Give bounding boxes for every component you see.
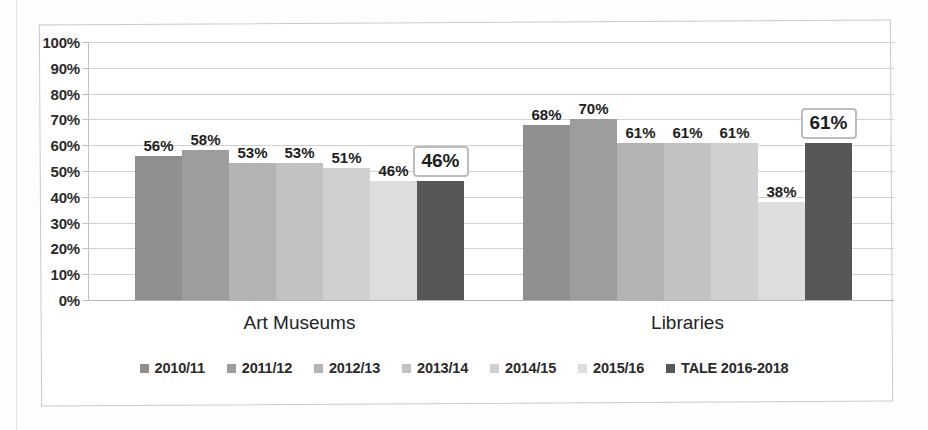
bar <box>417 181 464 300</box>
legend-swatch-icon <box>227 364 236 373</box>
y-axis-tick-mark <box>82 68 88 69</box>
y-axis-tick-label: 100% <box>26 34 80 51</box>
bar <box>711 143 758 300</box>
legend-swatch-icon <box>314 364 323 373</box>
legend-item-label: 2014/15 <box>505 360 556 376</box>
y-axis-tick-label: 0% <box>26 292 80 309</box>
plot-area: 56%58%53%53%51%46%46%68%70%61%61%61%38%6… <box>88 42 894 300</box>
y-axis-tick-label: 90% <box>26 59 80 76</box>
y-axis-tick-label: 80% <box>26 85 80 102</box>
gridline <box>88 119 894 120</box>
legend-item[interactable]: 2012/13 <box>314 360 380 376</box>
bar <box>758 202 805 300</box>
bar-value-label: 58% <box>190 131 220 148</box>
legend-item-label: TALE 2016-2018 <box>681 360 788 376</box>
bar-value-label: 61% <box>625 124 655 141</box>
legend-item-label: 2010/11 <box>155 360 205 376</box>
legend-swatch-icon <box>490 364 499 373</box>
y-axis-tick-mark <box>82 145 88 146</box>
bar <box>182 150 229 300</box>
bar-value-label: 68% <box>531 106 561 123</box>
legend-item[interactable]: 2015/16 <box>578 360 644 376</box>
legend-item-label: 2012/13 <box>329 360 380 376</box>
bar-value-label: 70% <box>578 100 608 117</box>
x-axis-baseline <box>88 300 894 301</box>
y-axis-tick-mark <box>82 223 88 224</box>
legend-item[interactable]: 2014/15 <box>490 360 556 376</box>
bar-value-label: 61% <box>800 108 856 139</box>
legend-item[interactable]: TALE 2016-2018 <box>666 360 788 376</box>
y-axis-tick-label: 70% <box>26 111 80 128</box>
bar <box>617 143 664 300</box>
legend-item-label: 2011/12 <box>242 360 292 376</box>
y-axis-tick-mark <box>82 197 88 198</box>
y-axis-tick-mark <box>82 300 88 301</box>
category-label: Art Museums <box>244 312 356 334</box>
bar-value-label: 46% <box>378 162 408 179</box>
gridline <box>88 42 894 43</box>
y-axis-tick-label: 10% <box>26 266 80 283</box>
bar <box>570 119 617 300</box>
legend-item-label: 2013/14 <box>417 360 468 376</box>
y-axis-tick-mark <box>82 119 88 120</box>
bar <box>323 168 370 300</box>
y-axis-tick-label: 50% <box>26 163 80 180</box>
gridline <box>88 68 894 69</box>
chart-screenshot: 100%90%80%70%60%50%40%30%20%10%0% 56%58%… <box>0 0 928 430</box>
legend-swatch-icon <box>140 364 149 373</box>
bar <box>229 163 276 300</box>
gridline <box>88 94 894 95</box>
legend-swatch-icon <box>666 364 675 373</box>
y-axis-tick-label: 60% <box>26 137 80 154</box>
chart-legend: 2010/112011/122012/132013/142014/152015/… <box>0 360 928 376</box>
y-axis-tick-mark <box>82 248 88 249</box>
bar <box>370 181 417 300</box>
category-label: Libraries <box>651 312 724 334</box>
bar-value-label: 53% <box>284 144 314 161</box>
bar-value-label: 61% <box>672 124 702 141</box>
y-axis-tick-label: 20% <box>26 240 80 257</box>
y-axis-tick-mark <box>82 171 88 172</box>
legend-item[interactable]: 2011/12 <box>227 360 292 376</box>
bar <box>135 156 182 300</box>
bar-value-label: 46% <box>412 146 468 177</box>
legend-swatch-icon <box>402 364 411 373</box>
bar-value-label: 56% <box>143 137 173 154</box>
legend-item-label: 2015/16 <box>593 360 644 376</box>
bar-value-label: 51% <box>331 149 361 166</box>
bar-value-label: 53% <box>237 144 267 161</box>
bar <box>805 143 852 300</box>
legend-item[interactable]: 2010/11 <box>140 360 205 376</box>
y-axis-line <box>88 42 89 301</box>
legend-item[interactable]: 2013/14 <box>402 360 468 376</box>
bar <box>276 163 323 300</box>
bar-value-label: 38% <box>766 183 796 200</box>
y-axis-tick-label: 30% <box>26 214 80 231</box>
bar-value-label: 61% <box>719 124 749 141</box>
y-axis-tick-mark <box>82 94 88 95</box>
legend-swatch-icon <box>578 364 587 373</box>
bar <box>523 125 570 300</box>
y-axis-tick-label: 40% <box>26 188 80 205</box>
bar <box>664 143 711 300</box>
y-axis-tick-mark <box>82 274 88 275</box>
y-axis-tick-mark <box>82 42 88 43</box>
y-axis-labels: 100%90%80%70%60%50%40%30%20%10%0% <box>20 42 80 301</box>
